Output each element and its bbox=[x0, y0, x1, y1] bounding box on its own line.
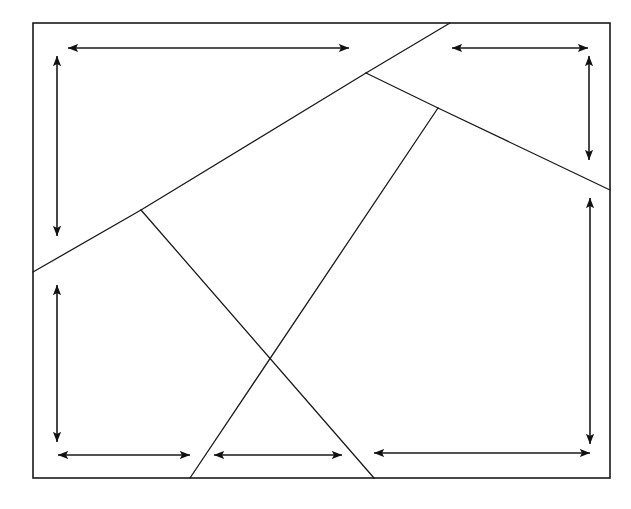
segment-a-to-bottom-right-anchor bbox=[141, 210, 374, 478]
segment-left-edge-to-a bbox=[33, 210, 141, 272]
segment-c-to-bottom-left-anchor bbox=[190, 108, 438, 478]
outer-rectangle bbox=[33, 23, 610, 478]
diagram-svg bbox=[0, 0, 631, 509]
segment-c-to-right-edge bbox=[438, 108, 610, 190]
line-network-group bbox=[33, 23, 610, 478]
dimension-arrows-group bbox=[57, 48, 590, 455]
segment-b-to-c bbox=[366, 73, 438, 108]
segment-a-to-b bbox=[141, 73, 366, 210]
diagram-canvas bbox=[0, 0, 631, 509]
segment-b-to-top-edge bbox=[366, 23, 450, 73]
